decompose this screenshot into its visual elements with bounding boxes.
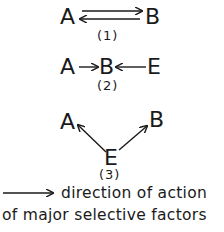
legend-line-2: of major selective factors: [2, 206, 207, 224]
panel2-node-a: A: [60, 56, 75, 78]
panel1-caption: (1): [97, 29, 118, 42]
panel3-node-b: B: [149, 109, 164, 131]
arrow-e-to-a: [78, 125, 106, 152]
panel3-caption: (3): [99, 168, 120, 181]
panel2-caption: (2): [97, 79, 118, 92]
panel2-node-e: E: [147, 56, 161, 78]
panel3-node-e: E: [104, 147, 118, 169]
legend-line-1: direction of action: [61, 184, 207, 202]
panel1-node-b: B: [145, 6, 160, 28]
arrow-e-to-b: [119, 126, 147, 150]
panel1-node-a: A: [60, 6, 75, 28]
panel3-node-a: A: [60, 111, 75, 133]
panel2-node-b: B: [99, 56, 114, 78]
